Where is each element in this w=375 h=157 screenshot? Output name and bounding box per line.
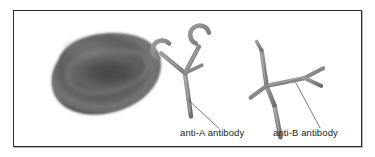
- anti-a-left-highlight: [163, 55, 183, 71]
- figure-illustration: [14, 11, 361, 146]
- label-anti-a-antibody: anti-A antibody: [180, 127, 244, 138]
- anti-b-top-tip: [257, 42, 262, 51]
- figure-root: anti-A antibody anti-B antibody: [0, 0, 375, 157]
- cell-dimple: [73, 55, 145, 89]
- anti-b-fork-upper-tip: [304, 68, 323, 78]
- leader-lines: [188, 82, 320, 129]
- anti-b-left-branch: [251, 86, 267, 98]
- anti-a-right-binding-site: [190, 26, 209, 44]
- leader-line-anti-b: [295, 82, 320, 128]
- label-anti-b-antibody: anti-B antibody: [273, 127, 338, 138]
- cell-specular: [64, 40, 108, 58]
- red-blood-cell: [52, 34, 160, 114]
- anti-a-antibody: [153, 26, 209, 117]
- anti-b-stem: [267, 86, 275, 106]
- anti-b-antibody: [251, 42, 324, 138]
- anti-b-fork-lower-tip: [304, 78, 321, 86]
